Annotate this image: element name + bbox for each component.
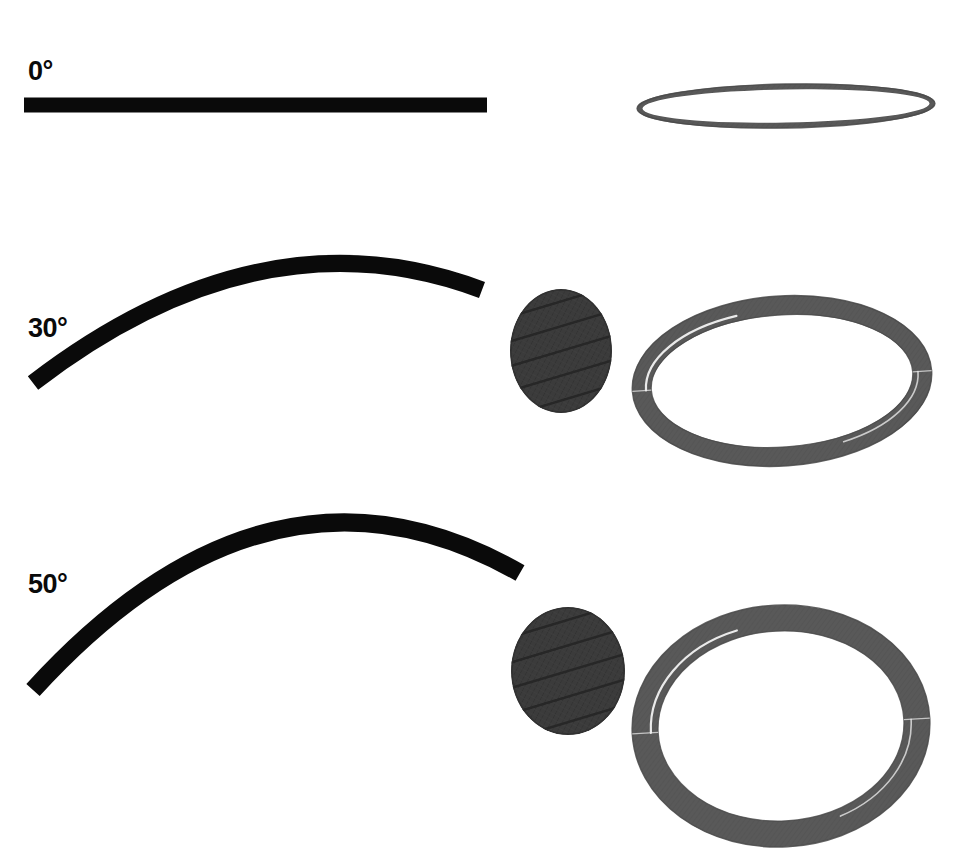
angle-label-50deg: 50°	[28, 571, 67, 598]
row-graphics-50deg	[33, 522, 936, 854]
textured-disk	[491, 597, 645, 746]
disk-striation	[490, 355, 632, 398]
disk-striation	[488, 42, 642, 88]
disk-body	[510, 289, 612, 413]
ring-outer-edge	[626, 597, 936, 854]
disk-striation	[491, 597, 645, 643]
tilt-angle-figure: 0° 30° 50°	[0, 0, 962, 857]
disk-rim	[509, 29, 621, 151]
ring-outer-edge	[626, 286, 937, 477]
torus-ring	[626, 286, 937, 477]
textured-disk	[488, 17, 642, 162]
bent-rod	[33, 522, 520, 690]
ring-seam-left	[632, 732, 658, 733]
disk-rim	[512, 608, 624, 734]
ring-seam-left	[632, 390, 651, 391]
ring-inner-edge	[647, 306, 918, 456]
row-graphics-0deg	[24, 17, 935, 162]
disk-striation	[488, 67, 642, 113]
disk-striation	[488, 17, 642, 63]
disk-striation	[490, 379, 632, 422]
ring-inner-edge	[653, 625, 909, 828]
disk-striation	[491, 622, 645, 668]
bent-rod	[33, 263, 482, 383]
disk-striation	[488, 117, 642, 163]
disk-body	[508, 28, 622, 152]
angle-label-0deg: 0°	[28, 58, 53, 85]
disk-rim	[511, 290, 611, 412]
ring-outer-edge	[637, 81, 936, 130]
disk-body	[511, 607, 625, 735]
disk-striation	[491, 699, 645, 745]
disk-striation	[490, 305, 632, 348]
ring-highlight	[646, 631, 742, 733]
ring-inner-edge	[643, 88, 930, 125]
straight-rod	[24, 98, 487, 113]
ring-hole	[642, 87, 930, 125]
ring-seam-right	[904, 718, 930, 719]
row-graphics-30deg	[33, 263, 938, 476]
disk-striation	[490, 280, 632, 323]
ring-band	[640, 84, 933, 127]
torus-ring	[626, 597, 936, 854]
disk-striation	[488, 92, 642, 138]
angle-label-30deg: 30°	[28, 315, 67, 342]
ring-highlight	[641, 316, 741, 391]
torus-ring	[637, 81, 936, 130]
ring-seam-right	[913, 371, 932, 372]
ring-band	[637, 296, 928, 466]
ring-highlight-secondary	[839, 371, 922, 441]
disk-striation	[491, 648, 645, 694]
disk-striation	[490, 330, 632, 373]
ring-highlight-secondary	[836, 719, 916, 816]
ring-band	[640, 611, 923, 841]
figure-graphics-layer	[0, 0, 962, 857]
disk-striation	[491, 674, 645, 720]
textured-disk	[490, 280, 632, 422]
